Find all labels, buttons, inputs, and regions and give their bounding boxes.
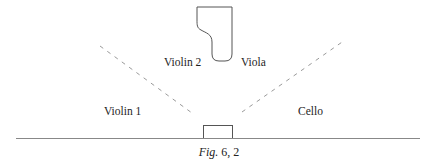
label-violin-1: Violin 1 [104, 106, 141, 118]
label-violin-2: Violin 2 [164, 57, 201, 69]
figure-caption: Fig. 6, 2 [0, 145, 438, 160]
piano-icon [197, 7, 232, 61]
caption-prefix: Fig. [199, 145, 219, 159]
conductor-podium [204, 126, 233, 139]
orchestra-seating-diagram: Violin 2 Viola Violin 1 Cello Fig. 6, 2 [0, 0, 438, 167]
caption-number: 6, 2 [221, 145, 239, 159]
right-dashed-divider [242, 40, 345, 112]
diagram-canvas [0, 0, 438, 167]
label-viola: Viola [241, 57, 266, 69]
label-cello: Cello [298, 106, 323, 118]
